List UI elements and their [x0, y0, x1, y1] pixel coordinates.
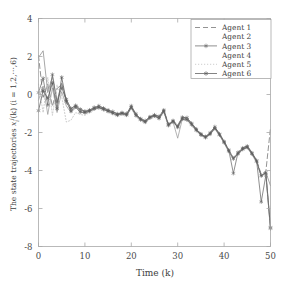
legend-label: Agent 4 — [221, 51, 252, 60]
state-trajectories-chart: 01020304050420-2-4-6-8 Time (k) The stat… — [0, 0, 291, 286]
y-axis-title-tail: ,6) — [9, 57, 18, 67]
legend-label: Agent 3 — [221, 42, 252, 51]
y-axis-title-lead: The state trajectories — [9, 126, 18, 211]
y-axis-title-dots: ··· — [9, 67, 18, 74]
figure-container: 01020304050420-2-4-6-8 Time (k) The stat… — [0, 0, 291, 286]
legend: Agent 1Agent 2Agent 3Agent 4Agent 5Agent… — [191, 20, 271, 79]
legend-item-agent-2[interactable]: Agent 2 — [221, 32, 251, 41]
y-tick-label: 4 — [27, 14, 32, 24]
x-tick-label: 0 — [36, 251, 41, 261]
legend-label: Agent 6 — [221, 69, 252, 78]
legend-label: Agent 1 — [221, 23, 251, 32]
y-tick-label: 0 — [27, 90, 32, 100]
y-tick-label: -4 — [24, 166, 32, 176]
x-tick-label: 20 — [126, 251, 137, 261]
x-tick-label: 30 — [172, 251, 183, 261]
y-tick-label: -2 — [24, 128, 32, 138]
legend-label: Agent 5 — [221, 60, 252, 69]
x-axis-title: Time (k) — [136, 268, 174, 278]
x-tick-label: 40 — [219, 251, 230, 261]
y-axis-title-arg: (k) (i — [9, 100, 18, 119]
legend-label: Agent 2 — [221, 32, 251, 41]
y-tick-label: -6 — [24, 204, 32, 214]
x-tick-label: 50 — [265, 251, 276, 261]
y-tick-label: -8 — [24, 242, 32, 252]
x-tick-label: 10 — [79, 251, 90, 261]
y-axis-title-eq: = 1,2, — [9, 74, 18, 100]
legend-item-agent-4[interactable]: Agent 4 — [221, 51, 252, 60]
y-tick-label: 2 — [27, 52, 32, 62]
